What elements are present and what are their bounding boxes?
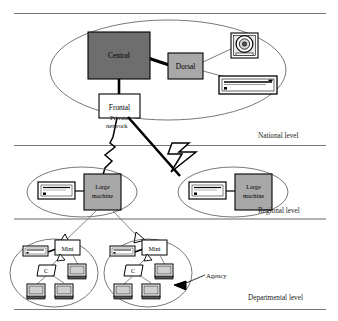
departmental-site-left: Mini C (10, 239, 98, 307)
link-concentrator-terminal-right-a (124, 276, 133, 284)
mini-node-label-left: Mini (61, 245, 73, 252)
link-large-machine-mini-left (65, 210, 97, 241)
large-machine-label-right-line2: machine (243, 192, 264, 199)
concentrator-label-left: C (44, 267, 48, 274)
mini-node-label-right: Mini (148, 245, 160, 252)
departmental-site-right: Mini C (104, 239, 192, 307)
regional-site-left: Large machine (27, 167, 137, 217)
concentrator-label-right: C (131, 267, 135, 274)
private-network-label-line2: network (106, 122, 128, 129)
printer-icon (38, 182, 75, 199)
printer-icon (23, 246, 48, 256)
regional-level-group: Large machine Large machine Regional (27, 167, 300, 217)
terminal-icon (68, 264, 86, 279)
large-machine-label-left-line2: machine (92, 192, 113, 199)
rack-unit-icon (219, 76, 277, 94)
large-machine-label-left-line1: Large (95, 183, 110, 190)
regional-level-label: Regional level (258, 207, 300, 215)
diagram-canvas: Central Dorsal Frontal (0, 0, 338, 321)
central-node-label: Central (108, 51, 130, 60)
agency-callout: Agency (174, 272, 227, 290)
frontal-node-label: Frontal (109, 103, 130, 112)
national-level-label: National level (258, 132, 299, 140)
terminal-icon (155, 264, 173, 279)
terminal-icon (142, 284, 160, 299)
link-concentrator-terminal-right-b (139, 275, 151, 283)
printer-icon (189, 182, 226, 199)
private-network-label-line1: Private (110, 114, 129, 121)
agency-label: Agency (206, 272, 227, 279)
terminal-icon (114, 284, 132, 299)
terminal-icon (27, 284, 45, 299)
agency-leader-line (186, 275, 205, 283)
link-concentrator-terminal-left-b (52, 275, 64, 283)
terminal-icon (55, 284, 73, 299)
printer-icon (110, 246, 135, 256)
agency-arrow-head (174, 281, 186, 290)
large-machine-label-right-line1: Large (246, 183, 261, 190)
national-level-group: Central Dorsal Frontal (50, 20, 286, 120)
link-dorsal-tape-drive (203, 49, 231, 62)
network-architecture-diagram: Central Dorsal Frontal (0, 0, 338, 321)
tape-drive-icon (231, 33, 258, 58)
departmental-level-group: Mini C (10, 239, 303, 307)
departmental-level-label: Departmental level (248, 294, 303, 302)
link-concentrator-terminal-left-a (37, 276, 46, 284)
dorsal-node-label: Dorsal (176, 62, 196, 71)
